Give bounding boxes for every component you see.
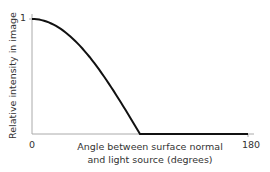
- y-tick-label-1: 1: [20, 12, 26, 23]
- x-tick-label-180: 180: [242, 139, 260, 150]
- y-axis-label: Relative intensity in image: [7, 6, 18, 146]
- x-tick-label-0: 0: [29, 139, 35, 150]
- intensity-curve: [32, 19, 248, 134]
- x-axis-label-line1: Angle between surface normal: [60, 140, 240, 153]
- x-axis-label: Angle between surface normal and light s…: [60, 140, 240, 166]
- x-axis-label-line2: and light source (degrees): [60, 153, 240, 166]
